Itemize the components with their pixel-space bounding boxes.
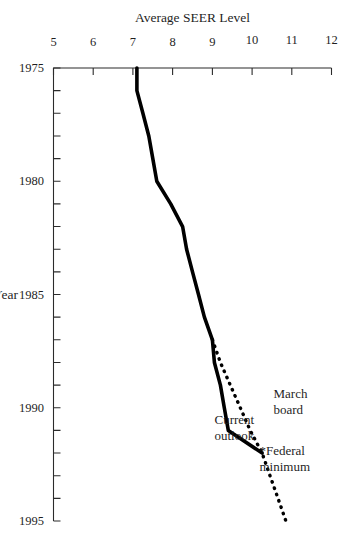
x-axis-tick-labels: 1975 1980 1985 1990 1995	[19, 61, 44, 528]
rotated-figure-stage: 1975 1980 1985 1990 1995 Year 5	[0, 0, 351, 546]
x-tick-label-1990: 1990	[19, 401, 44, 415]
chart-container: 1975 1980 1985 1990 1995 Year 5	[0, 0, 351, 546]
y-axis-title: Average SEER Level	[134, 10, 249, 25]
x-tick-label-1980: 1980	[19, 174, 44, 188]
annotation-current-outlook-line1: Current	[214, 412, 254, 427]
annotation-march-board: March board	[273, 386, 307, 417]
y-tick-label-5: 5	[50, 35, 56, 49]
y-tick-label-6: 6	[90, 35, 96, 49]
annotation-federal-minimum-line1: *Federal	[259, 443, 305, 458]
annotation-federal-minimum: *Federal minimum	[259, 443, 310, 474]
y-tick-label-8: 8	[169, 35, 175, 49]
x-tick-label-1995: 1995	[19, 514, 44, 528]
y-tick-label-10: 10	[245, 33, 258, 47]
annotation-current-outlook-line2: outlook	[214, 428, 254, 443]
y-tick-label-7: 7	[129, 35, 135, 49]
y-tick-label-9: 9	[209, 35, 215, 49]
line-chart-svg: 1975 1980 1985 1990 1995 Year 5	[0, 0, 351, 546]
series-current-outlook	[136, 68, 261, 453]
x-axis-title: Year	[0, 287, 18, 302]
x-tick-label-1985: 1985	[19, 288, 44, 302]
y-tick-label-11: 11	[285, 33, 297, 47]
annotation-march-board-line1: March	[273, 386, 307, 401]
annotation-current-outlook: Current outlook	[214, 412, 254, 443]
x-tick-label-1975: 1975	[19, 61, 44, 75]
annotation-federal-minimum-line2: minimum	[259, 459, 310, 474]
y-tick-label-12: 12	[325, 33, 338, 47]
y-axis-ticks	[53, 68, 331, 75]
y-axis-tick-labels: 5 6 7 8 9 10 11 12	[50, 33, 337, 49]
x-axis-ticks	[53, 68, 60, 521]
annotation-march-board-line2: board	[273, 402, 303, 417]
